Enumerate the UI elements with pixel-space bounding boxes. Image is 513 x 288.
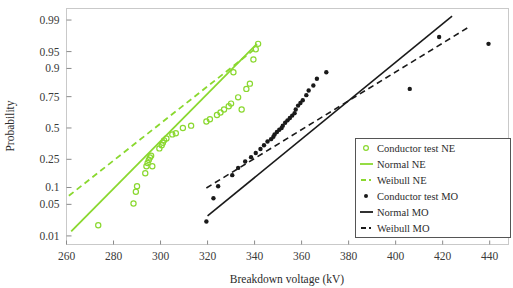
- y-tick-label: 0.05: [39, 198, 59, 210]
- legend-filled-circle-icon: [364, 194, 368, 198]
- data-point: [211, 196, 215, 200]
- series-normal-ne: [71, 44, 257, 231]
- data-point: [96, 223, 101, 228]
- y-tick-label: 0.1: [45, 181, 60, 193]
- data-point: [247, 81, 252, 86]
- x-tick-label: 280: [105, 250, 123, 262]
- trend-line: [71, 44, 257, 231]
- data-point: [262, 143, 266, 147]
- data-point: [304, 93, 308, 97]
- x-axis-title: Breakdown voltage (kV): [230, 273, 344, 286]
- x-tick-label: 360: [293, 250, 311, 262]
- x-tick-label: 400: [387, 250, 405, 262]
- data-point: [236, 95, 241, 100]
- data-point: [144, 164, 149, 169]
- data-point: [189, 123, 194, 128]
- y-axis-title: Probability: [4, 100, 17, 151]
- probability-plot-figure: 260280300320340360380400420440 0.010.050…: [0, 0, 513, 288]
- x-tick-label: 260: [58, 250, 76, 262]
- y-tick-label: 0.99: [39, 14, 59, 26]
- data-point: [243, 159, 247, 163]
- chart-svg: 260280300320340360380400420440 0.010.050…: [0, 0, 513, 288]
- x-tick-label: 420: [434, 250, 452, 262]
- data-point: [230, 173, 234, 177]
- y-tick-label: 0.75: [39, 91, 59, 103]
- trend-line: [69, 49, 255, 196]
- data-point: [254, 151, 258, 155]
- y-tick-label: 0.9: [45, 62, 60, 74]
- legend-label: Conductor test NE: [377, 143, 455, 154]
- x-tick-label: 320: [199, 250, 217, 262]
- data-point: [249, 155, 253, 159]
- data-point: [150, 164, 155, 169]
- y-axis-tick-labels: 0.010.050.10.250.50.750.90.950.99: [39, 14, 59, 242]
- data-point: [301, 98, 305, 102]
- x-tick-label: 440: [481, 250, 499, 262]
- data-point: [311, 83, 315, 87]
- legend-item-conductor-test-mo[interactable]: Conductor test MO: [364, 191, 458, 202]
- chart-legend: Conductor test NENormal NEWeibull NECond…: [356, 139, 511, 238]
- legend-item-conductor-test-ne[interactable]: Conductor test NE: [364, 143, 456, 154]
- x-tick-label: 380: [340, 250, 358, 262]
- data-point: [239, 107, 244, 112]
- data-point: [133, 189, 138, 194]
- data-point: [486, 42, 490, 46]
- x-tick-label: 300: [152, 250, 170, 262]
- legend-label: Weibull NE: [377, 175, 427, 186]
- x-tick-label: 340: [246, 250, 264, 262]
- legend-label: Normal MO: [377, 207, 429, 218]
- data-point: [251, 57, 256, 62]
- x-axis-ticks: [67, 241, 490, 245]
- data-point: [306, 88, 310, 92]
- x-axis-tick-labels: 260280300320340360380400420440: [58, 250, 499, 262]
- data-point: [294, 107, 298, 111]
- data-point: [134, 184, 139, 189]
- y-tick-label: 0.95: [39, 46, 59, 58]
- y-tick-label: 0.01: [39, 230, 59, 242]
- data-point: [143, 171, 148, 176]
- data-point: [315, 77, 319, 81]
- legend-label: Conductor test MO: [377, 191, 458, 202]
- y-axis-ticks: [67, 20, 72, 236]
- legend-label: Normal NE: [377, 159, 426, 170]
- data-point: [437, 35, 441, 39]
- y-tick-label: 0.25: [39, 153, 59, 165]
- y-tick-label: 0.5: [45, 122, 60, 134]
- data-point: [244, 86, 249, 91]
- data-point: [324, 70, 328, 74]
- series-weibull-ne: [69, 49, 255, 196]
- data-point: [408, 87, 412, 91]
- data-point: [292, 111, 296, 115]
- data-point: [258, 147, 262, 151]
- data-point: [180, 125, 185, 130]
- data-point: [216, 184, 220, 188]
- legend-label: Weibull MO: [377, 223, 430, 234]
- data-point: [131, 201, 136, 206]
- data-point: [204, 219, 208, 223]
- series-conductor-test-ne: [96, 41, 261, 228]
